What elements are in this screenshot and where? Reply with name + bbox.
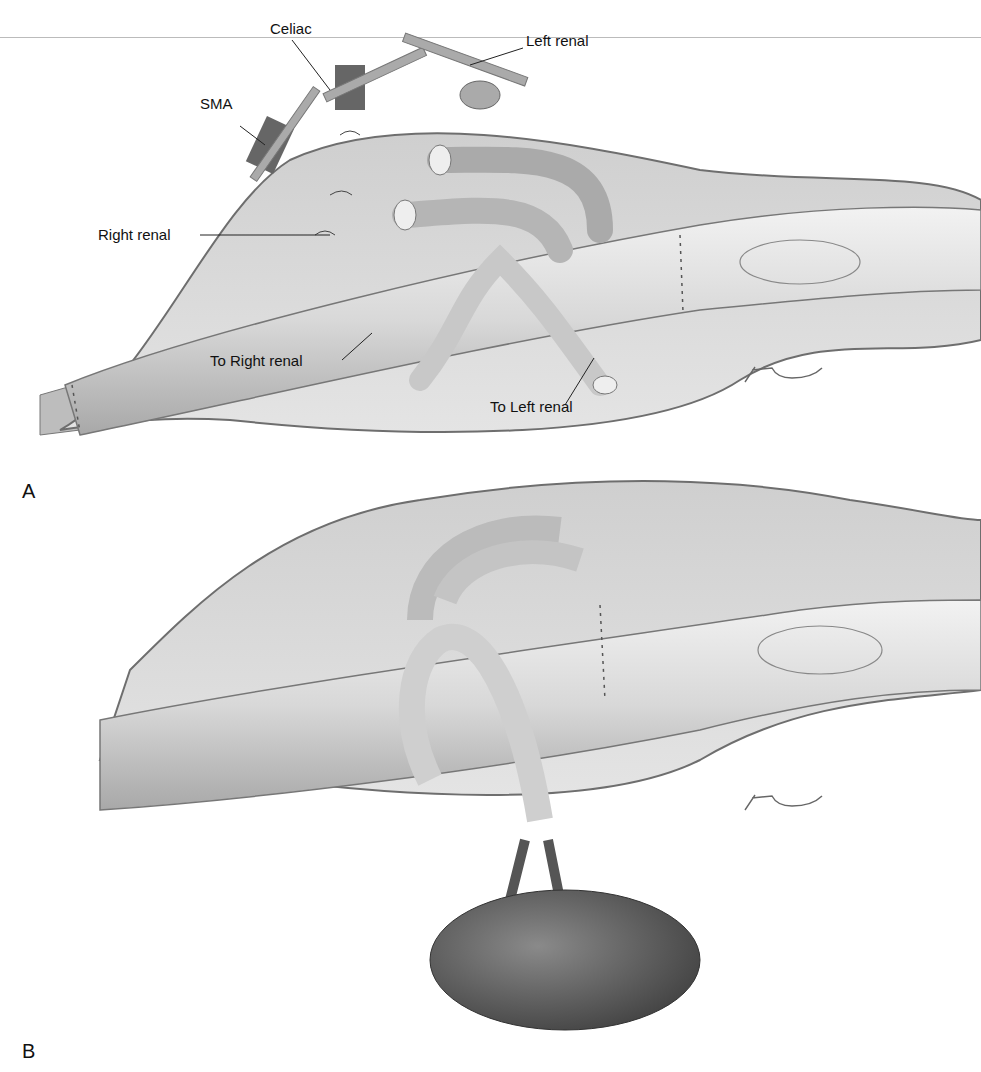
panel-a-drawing bbox=[40, 33, 981, 435]
panel-label-b: B bbox=[22, 1040, 35, 1063]
label-to-right-renal: To Right renal bbox=[210, 352, 303, 369]
panel-label-a: A bbox=[22, 480, 35, 503]
label-right-renal: Right renal bbox=[98, 226, 171, 243]
label-left-renal: Left renal bbox=[526, 32, 589, 49]
panel-b-drawing bbox=[100, 481, 981, 1030]
signature-b bbox=[745, 795, 822, 810]
label-celiac: Celiac bbox=[270, 20, 312, 37]
surgical-illustration bbox=[0, 0, 981, 1072]
signature-a bbox=[745, 367, 822, 382]
label-sma: SMA bbox=[200, 95, 233, 112]
label-to-left-renal: To Left renal bbox=[490, 398, 573, 415]
